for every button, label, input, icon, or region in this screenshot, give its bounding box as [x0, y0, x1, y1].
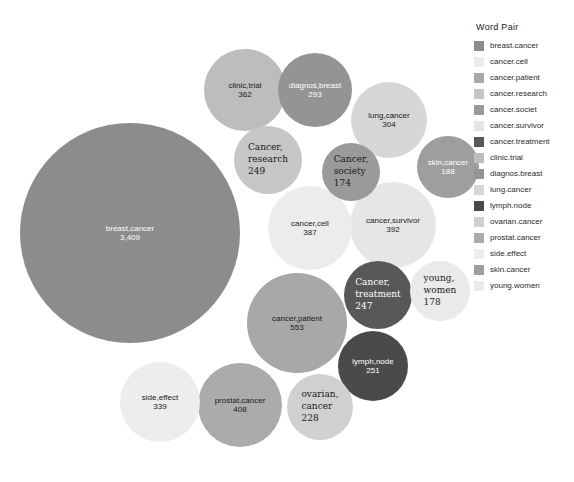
bubble-value-text: 408 [215, 405, 266, 414]
bubble-young-women[interactable]: young,women178 [410, 261, 470, 321]
bubble-value-text: 249 [248, 166, 288, 178]
legend-item-diagnos-breast[interactable]: diagnos.breast [474, 166, 574, 181]
legend-item-label: cancer.societ [490, 105, 537, 114]
legend-item-list: breast.cancercancer.cellcancer.patientca… [474, 38, 574, 293]
bubble-pair-text: side,effect [142, 393, 178, 402]
bubble-pair-text: clinic,trial [229, 81, 262, 90]
legend-item-lymph-node[interactable]: lymph.node [474, 198, 574, 213]
bubble-breast-cancer[interactable]: breast,cancer3,409 [20, 123, 240, 343]
bubble-value-text: 174 [334, 178, 369, 190]
bubble-clinic-trial[interactable]: clinic,trial362 [204, 49, 286, 131]
bubble-pair-text-line2: treatment [355, 289, 401, 301]
legend-item-lung-cancer[interactable]: lung.cancer [474, 182, 574, 197]
legend-swatch-icon [474, 185, 484, 195]
legend-item-young-women[interactable]: young.women [474, 278, 574, 293]
bubble-label: prostat,cancer408 [215, 396, 266, 414]
bubble-value-text: 188 [428, 167, 468, 176]
bubble-pair-text: breast,cancer [106, 224, 154, 233]
bubble-label: Cancer,society174 [334, 154, 369, 189]
bubble-value-text: 228 [301, 413, 338, 425]
bubble-pair-text: ovarian, [301, 389, 338, 401]
bubble-cancer-research[interactable]: Cancer,research249 [234, 126, 302, 194]
legend-item-cancer-treatment[interactable]: cancer.treatment [474, 134, 574, 149]
bubble-pair-text: Cancer, [334, 154, 369, 166]
legend-swatch-icon [474, 249, 484, 259]
legend-swatch-icon [474, 233, 484, 243]
bubble-pair-text-line2: research [248, 154, 288, 166]
legend-item-label: cancer.patient [490, 73, 540, 82]
legend-item-prostat-cancer[interactable]: prostat.cancer [474, 230, 574, 245]
legend-item-clinic-trial[interactable]: clinic.trial [474, 150, 574, 165]
legend-item-label: young.women [490, 281, 540, 290]
bubble-skin-cancer[interactable]: skin,cancer188 [417, 136, 479, 198]
legend-item-cancer-survivor[interactable]: cancer.survivor [474, 118, 574, 133]
bubble-label: lung,cancer304 [368, 111, 409, 129]
bubble-label: breast,cancer3,409 [106, 224, 154, 242]
bubble-cancer-treatment[interactable]: Cancer,treatment247 [344, 261, 412, 329]
bubble-pair-text: cancer,cell [291, 219, 329, 228]
bubble-value-text: 339 [142, 402, 178, 411]
legend-item-label: side.effect [490, 249, 526, 258]
legend-swatch-icon [474, 121, 484, 131]
bubble-cancer-societ[interactable]: Cancer,society174 [322, 143, 380, 201]
legend-item-label: lymph.node [490, 201, 531, 210]
legend-item-ovarian-cancer[interactable]: ovarian.cancer [474, 214, 574, 229]
legend-item-cancer-patient[interactable]: cancer.patient [474, 70, 574, 85]
bubble-label: side,effect339 [142, 393, 178, 411]
bubble-pair-text: Cancer, [248, 142, 288, 154]
bubble-value-text: 553 [272, 323, 322, 332]
legend-item-skin-cancer[interactable]: skin.cancer [474, 262, 574, 277]
legend-swatch-icon [474, 169, 484, 179]
bubble-pair-text-line2: women [424, 285, 457, 297]
bubble-diagnos-breast[interactable]: diagnos,breast293 [278, 53, 352, 127]
bubble-label: Cancer,treatment247 [355, 277, 401, 312]
bubble-cancer-patient[interactable]: cancer,patient553 [247, 273, 347, 373]
legend-item-label: diagnos.breast [490, 169, 542, 178]
legend-swatch-icon [474, 137, 484, 147]
bubble-label: lymph,node251 [352, 357, 393, 375]
bubble-label: cancer,patient553 [272, 314, 322, 332]
legend: Word Pair breast.cancercancer.cellcancer… [474, 22, 574, 294]
bubble-pair-text: Cancer, [355, 277, 401, 289]
bubble-value-text: 362 [229, 90, 262, 99]
bubble-ovarian-cancer[interactable]: ovarian,cancer228 [287, 374, 353, 440]
legend-item-label: lung.cancer [490, 185, 531, 194]
bubble-label: diagnos,breast293 [289, 81, 341, 99]
legend-swatch-icon [474, 265, 484, 275]
bubble-value-text: 3,409 [106, 233, 154, 242]
bubble-prostat-cancer[interactable]: prostat,cancer408 [198, 363, 282, 447]
bubble-value-text: 304 [368, 120, 409, 129]
legend-item-label: skin.cancer [490, 265, 530, 274]
bubble-label: Cancer,research249 [248, 142, 288, 177]
bubble-pair-text: cancer,survivor [366, 216, 420, 225]
bubble-label: clinic,trial362 [229, 81, 262, 99]
bubble-pair-text: young, [424, 273, 457, 285]
legend-item-cancer-research[interactable]: cancer.research [474, 86, 574, 101]
legend-item-cancer-cell[interactable]: cancer.cell [474, 54, 574, 69]
bubble-value-text: 293 [289, 90, 341, 99]
bubble-pair-text-line2: society [334, 166, 369, 178]
legend-swatch-icon [474, 89, 484, 99]
bubble-side-effect[interactable]: side,effect339 [120, 362, 200, 442]
legend-swatch-icon [474, 153, 484, 163]
legend-swatch-icon [474, 217, 484, 227]
legend-swatch-icon [474, 57, 484, 67]
bubble-label: ovarian,cancer228 [301, 389, 338, 424]
bubble-label: young,women178 [424, 273, 457, 308]
bubble-value-text: 251 [352, 366, 393, 375]
legend-swatch-icon [474, 201, 484, 211]
bubble-value-text: 247 [355, 301, 401, 313]
bubble-value-text: 178 [424, 297, 457, 309]
legend-item-breast-cancer[interactable]: breast.cancer [474, 38, 574, 53]
bubble-pair-text: prostat,cancer [215, 396, 266, 405]
bubble-chart-canvas: breast,cancer3,409cancer,patient553prost… [0, 0, 470, 482]
legend-swatch-icon [474, 73, 484, 83]
legend-swatch-icon [474, 41, 484, 51]
legend-item-cancer-societ[interactable]: cancer.societ [474, 102, 574, 117]
bubble-value-text: 387 [291, 228, 329, 237]
legend-item-side-effect[interactable]: side.effect [474, 246, 574, 261]
bubble-label: skin,cancer188 [428, 158, 468, 176]
legend-item-label: cancer.survivor [490, 121, 544, 130]
legend-item-label: cancer.research [490, 89, 547, 98]
bubble-pair-text: lung,cancer [368, 111, 409, 120]
